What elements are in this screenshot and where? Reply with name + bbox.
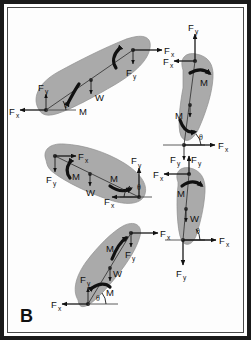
segment-2-distal-fy-sub: y (177, 160, 181, 168)
segment-1-proximal-fx-sub: x (171, 51, 175, 58)
segment-2-proximal-fx-label: F (163, 56, 169, 67)
segment-3-distal-fx-label: F (104, 196, 110, 207)
figure-panel-b: θ F x F y W M F x F y (0, 0, 251, 340)
segment-5-proximal-fx-label: F (160, 228, 166, 239)
segment-5-weight-label: W (113, 268, 122, 279)
segment-4-proximal-fy-sub: y (198, 160, 202, 168)
segment-1-proximal-fy-sub: y (133, 73, 137, 81)
segment-5-distal-fy-label: F (80, 274, 86, 285)
segment-3-group: F x F y M W M θ F x F (45, 144, 152, 209)
segment-1-distal-fx-sub: x (16, 112, 20, 119)
segment-2-proximal-moment-label: M (200, 77, 208, 88)
segment-5-distal-fx-label: F (51, 299, 57, 310)
segment-5-distal-fx-sub: x (58, 305, 62, 312)
segment-5-group: θ F x F y M W M F x F y (51, 223, 171, 312)
segment-1-moment-label: M (79, 106, 87, 117)
segment-3-body (45, 144, 146, 203)
segment-2-distal-fy-label: F (170, 154, 176, 165)
segment-2-distal-fx-label: F (218, 140, 224, 151)
segment-3-proximal-fx-label: F (78, 151, 84, 162)
segment-5-proximal-fy-label: F (125, 249, 131, 260)
segment-4-distal-fy-sub: y (183, 274, 187, 282)
segment-5-proximal-moment-label: M (106, 243, 114, 254)
segment-3-distal-fx-sub: x (111, 202, 115, 209)
segment-1-proximal-fy-label: F (126, 67, 132, 78)
segment-4-moment-label: M (177, 188, 185, 199)
segment-4-proximal-fy-label: F (191, 154, 197, 165)
segment-2-theta-label: θ (199, 133, 203, 142)
segment-2-group: F y F x M M θ F x F y (163, 22, 229, 168)
segment-1-group: θ F x F y W M F x F y (9, 36, 175, 119)
segment-3-weight-label: W (86, 187, 95, 198)
segment-3-distal-fy-sub: y (138, 162, 142, 170)
segment-1-distal-fy-label: F (38, 82, 44, 93)
segment-4-distal-fy-label: F (176, 268, 182, 279)
segment-4-theta-label: θ (196, 227, 200, 236)
segment-2-proximal-fx-sub: x (170, 62, 174, 69)
segment-3-proximal-fy-label: F (46, 174, 52, 185)
segment-4-proximal-fx-label: F (153, 169, 159, 180)
segment-3-distal-fy-label: F (131, 155, 137, 166)
segment-2-distal-moment-label: M (175, 110, 183, 121)
segment-4-distal-fx-sub: x (226, 241, 230, 248)
segment-4-group: F y F x M W θ F x F y (153, 154, 230, 282)
segment-2-distal-fx-sub: x (225, 146, 229, 153)
segment-4-weight-label: W (190, 213, 199, 224)
segment-3-distal-moment-label: M (110, 173, 118, 184)
segment-1-weight-label: W (95, 92, 104, 103)
segment-3-proximal-moment-label: M (72, 171, 80, 182)
segment-4-body (177, 168, 205, 245)
segment-2-proximal-fy-label: F (188, 22, 194, 33)
segment-5-proximal-fy-sub: y (132, 255, 136, 263)
segment-5-distal-moment-label: M (106, 287, 114, 298)
diagram-canvas: θ F x F y W M F x F y (0, 0, 251, 340)
segment-4-distal-fx-label: F (219, 235, 225, 246)
segment-4-proximal-fx-sub: x (160, 175, 164, 182)
segment-1-proximal-fx-label: F (164, 45, 170, 56)
segment-2-proximal-fy-sub: y (195, 28, 199, 36)
segment-3-proximal-fy-sub: y (53, 180, 57, 188)
panel-letter: B (20, 306, 33, 326)
segment-5-theta-label: θ (96, 294, 100, 303)
segment-1-distal-fx-label: F (9, 106, 15, 117)
